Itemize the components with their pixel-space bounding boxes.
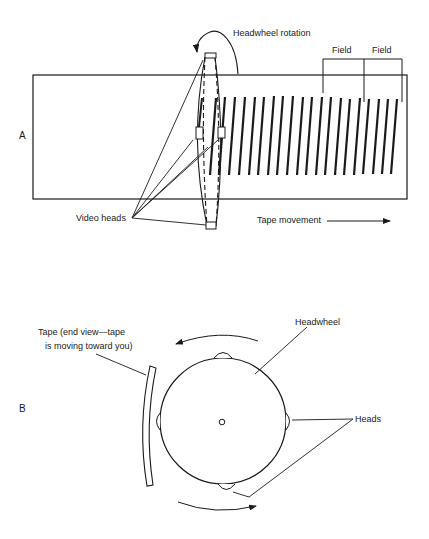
rotation-arrow-top: [176, 335, 258, 344]
tape-movement-label: Tape movement: [257, 215, 321, 226]
tape-leader: [96, 354, 146, 375]
head-top: [214, 353, 232, 359]
video-head-top: [205, 53, 216, 58]
field-label-1: Field: [332, 45, 352, 56]
tape-end-view: [143, 366, 156, 486]
field-label-2: Field: [372, 45, 392, 56]
headwheel-leader: [255, 327, 307, 374]
diagram-canvas: [0, 0, 429, 539]
panel-b: [96, 327, 353, 510]
video-heads-label: Video heads: [76, 213, 126, 224]
video-head-bottom: [206, 222, 216, 229]
video-heads-leaders: [132, 60, 218, 225]
video-tracks: [210, 96, 397, 175]
head-bottom: [218, 484, 235, 490]
headwheel-rotation-label: Headwheel rotation: [233, 28, 311, 39]
tape-end-view-label-line1: Tape (end view—tape: [38, 327, 125, 338]
head-right: [286, 413, 290, 430]
field-brackets: [323, 59, 402, 102]
rotation-arrow-bottom: [178, 502, 256, 510]
track-in-progress: [199, 98, 202, 127]
panel-b-label: B: [19, 403, 26, 414]
head-drum: [197, 57, 220, 226]
panel-a-label: A: [19, 130, 26, 141]
video-head-right: [218, 127, 225, 138]
tape-end-view-label-line2: is moving toward you): [45, 341, 133, 352]
headwheel-hub: [219, 419, 225, 425]
headwheel-label: Headwheel: [295, 317, 340, 328]
head-left: [157, 413, 161, 430]
heads-label: Heads: [355, 414, 381, 425]
panel-a: [33, 31, 407, 229]
heads-leaders: [233, 419, 353, 497]
video-head-left: [196, 127, 203, 139]
